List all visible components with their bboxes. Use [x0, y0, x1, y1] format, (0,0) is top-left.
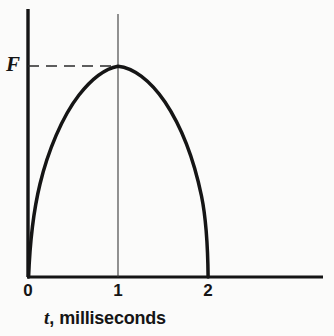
x-tick-label-0: 0: [14, 282, 42, 299]
x-axis-label-separator: ,: [49, 309, 54, 327]
x-tick-label-2: 2: [194, 282, 222, 299]
y-axis-label: F: [6, 54, 20, 75]
x-axis-label: t,milliseconds: [44, 308, 166, 327]
force-vs-time-figure: F 0 1 2 t,milliseconds: [0, 0, 334, 336]
x-axis-label-units: milliseconds: [59, 309, 166, 327]
plot-canvas: [0, 0, 334, 336]
x-tick-label-1: 1: [104, 282, 132, 299]
